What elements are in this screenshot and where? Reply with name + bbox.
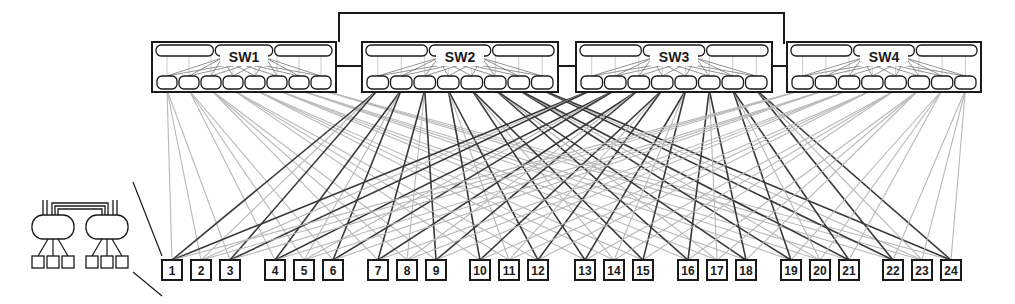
compute-node-21: 21 (839, 260, 859, 280)
switch-port (485, 76, 507, 89)
node-label: 3 (227, 264, 234, 278)
zoom-callout-line (133, 182, 162, 256)
switch-module (916, 45, 977, 56)
switch-port (289, 76, 309, 89)
compute-node-1: 1 (162, 260, 182, 280)
switch-port (391, 76, 413, 89)
switch-sw1: SW1 (152, 42, 336, 92)
switch-port (628, 76, 650, 89)
inset-node (86, 256, 98, 268)
switch-sw3: SW3 (576, 42, 772, 92)
node-label: 13 (578, 264, 592, 278)
node-label: 23 (915, 264, 929, 278)
zoom-callout-line (133, 272, 162, 296)
switch-port (532, 76, 554, 89)
link-line (167, 90, 201, 260)
compute-node-18: 18 (736, 260, 756, 280)
switch-port (862, 76, 883, 89)
switch-port (908, 76, 929, 89)
switch-port (414, 76, 436, 89)
node-label: 22 (886, 264, 900, 278)
compute-node-22: 22 (883, 260, 903, 280)
link-line (167, 90, 172, 260)
link-line (538, 90, 872, 260)
switch-port (201, 76, 221, 89)
compute-node-3: 3 (220, 260, 240, 280)
node-label: 12 (531, 264, 545, 278)
node-layer: 123456789101112131415161718192021222324 (162, 260, 961, 280)
compute-node-19: 19 (781, 260, 801, 280)
switch-port (461, 76, 483, 89)
compute-node-10: 10 (470, 260, 490, 280)
link-line (820, 90, 942, 260)
switch-port (932, 76, 953, 89)
compute-node-14: 14 (604, 260, 624, 280)
compute-node-24: 24 (941, 260, 961, 280)
switch-label: SW2 (445, 49, 476, 65)
switch-port (652, 76, 674, 89)
switch-module (275, 45, 332, 56)
link-line (167, 90, 230, 260)
inset-node (116, 256, 128, 268)
inset-detail (32, 182, 162, 296)
node-label: 18 (739, 264, 753, 278)
switch-port (885, 76, 906, 89)
node-label: 10 (473, 264, 487, 278)
switch-port (675, 76, 697, 89)
switch-port (815, 76, 836, 89)
router-left (32, 215, 74, 239)
compute-node-11: 11 (499, 260, 519, 280)
compute-node-8: 8 (397, 260, 417, 280)
link-line (688, 90, 919, 260)
node-label: 21 (842, 264, 856, 278)
switch-port (955, 76, 976, 89)
compute-node-12: 12 (528, 260, 548, 280)
switch-port (605, 76, 627, 89)
compute-node-2: 2 (191, 260, 211, 280)
compute-node-15: 15 (633, 260, 653, 280)
node-label: 16 (681, 264, 695, 278)
switch-port (699, 76, 721, 89)
link-line (189, 90, 333, 260)
switch-port (367, 76, 389, 89)
switch-module (366, 45, 427, 56)
switch-sw2: SW2 (362, 42, 558, 92)
compute-node-13: 13 (575, 260, 595, 280)
inset-node (32, 256, 44, 268)
switch-label: SW1 (229, 49, 260, 65)
topology-diagram: SW1SW2SW3SW4 123456789101112131415161718… (0, 0, 1015, 304)
node-label: 1 (169, 264, 176, 278)
node-label: 14 (607, 264, 621, 278)
node-label: 9 (433, 264, 440, 278)
node-label: 2 (198, 264, 205, 278)
compute-node-23: 23 (912, 260, 932, 280)
node-label: 20 (813, 264, 827, 278)
inset-node (62, 256, 74, 268)
switch-label: SW4 (869, 49, 900, 65)
switch-module (156, 45, 213, 56)
compute-node-6: 6 (323, 260, 343, 280)
compute-node-4: 4 (265, 260, 285, 280)
compute-node-7: 7 (368, 260, 388, 280)
inset-node (47, 256, 59, 268)
link-line (407, 90, 639, 260)
node-label: 6 (330, 264, 337, 278)
link-line (951, 90, 965, 260)
inset-node (101, 256, 113, 268)
switch-sw4: SW4 (787, 42, 981, 92)
node-label: 7 (375, 264, 382, 278)
compute-node-5: 5 (294, 260, 314, 280)
link-line (211, 90, 436, 260)
switch-label: SW3 (659, 49, 690, 65)
node-label: 15 (636, 264, 650, 278)
switch-module (707, 45, 768, 56)
compute-node-9: 9 (426, 260, 446, 280)
node-label: 17 (710, 264, 724, 278)
router-right (86, 215, 128, 239)
link-line (201, 90, 592, 260)
switch-port (581, 76, 603, 89)
compute-node-20: 20 (810, 260, 830, 280)
switch-port (267, 76, 287, 89)
switch-port (839, 76, 860, 89)
switch-port (508, 76, 530, 89)
